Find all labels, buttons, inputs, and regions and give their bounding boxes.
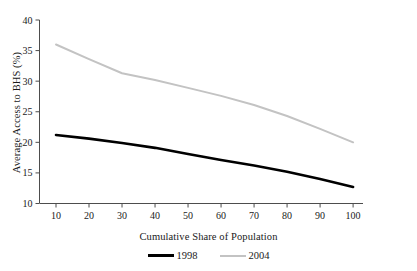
chart-container: Average Access to BHS (%) 10152025303540…: [0, 0, 417, 271]
legend-swatch-1998: [148, 254, 174, 257]
series-line-2004: [56, 44, 353, 142]
svg-text:80: 80: [282, 210, 292, 221]
svg-text:90: 90: [315, 210, 325, 221]
svg-text:100: 100: [346, 210, 361, 221]
svg-text:30: 30: [117, 210, 127, 221]
svg-text:60: 60: [216, 210, 226, 221]
legend-label-2004: 2004: [249, 250, 270, 261]
legend-item-1998: 1998: [148, 250, 198, 261]
svg-text:20: 20: [23, 137, 33, 148]
svg-text:25: 25: [23, 106, 33, 117]
x-axis-ticks: [56, 204, 353, 208]
svg-text:30: 30: [23, 76, 33, 87]
legend-label-1998: 1998: [177, 250, 198, 261]
svg-text:35: 35: [23, 45, 33, 56]
x-axis-tick-labels: 102030405060708090100: [51, 210, 361, 221]
chart-legend: 1998 2004: [0, 250, 417, 261]
svg-text:50: 50: [183, 210, 193, 221]
svg-text:10: 10: [23, 198, 33, 209]
legend-item-2004: 2004: [220, 250, 270, 261]
series-line-1998: [56, 135, 353, 187]
svg-text:15: 15: [23, 167, 33, 178]
axis-lines: [40, 20, 364, 204]
svg-text:20: 20: [84, 210, 94, 221]
x-axis-label: Cumulative Share of Population: [0, 231, 417, 242]
svg-text:10: 10: [51, 210, 61, 221]
legend-swatch-2004: [220, 255, 246, 257]
data-series-group: [56, 44, 353, 187]
svg-text:40: 40: [23, 15, 33, 26]
svg-text:70: 70: [249, 210, 259, 221]
y-axis-tick-labels: 10152025303540: [23, 15, 33, 210]
svg-text:40: 40: [150, 210, 160, 221]
y-axis-ticks: [36, 20, 40, 204]
